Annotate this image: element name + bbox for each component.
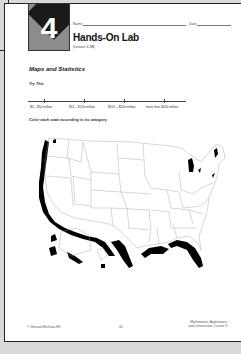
category-label: $0 – $50 million	[30, 105, 52, 109]
date-field[interactable]	[197, 25, 231, 26]
us-map	[31, 132, 231, 282]
number-line-tick	[164, 99, 165, 103]
category-label: more than $200 million	[146, 105, 178, 109]
date-label: Date	[189, 22, 196, 26]
name-label: Name	[73, 22, 82, 26]
state-borders	[45, 138, 225, 260]
number-line-tick	[124, 99, 125, 103]
footer-book-title: Mathematics: Applications and Connection…	[177, 320, 227, 328]
footer-page-number: 40	[119, 325, 123, 329]
category-label: $51 – $100 million	[69, 105, 95, 109]
chapter-number: 4	[29, 12, 69, 44]
number-line-tick	[84, 99, 85, 103]
instruction-text: Color each state according to its catego…	[29, 117, 108, 122]
name-date-row: Name Date	[73, 19, 233, 27]
number-line-axis	[28, 101, 186, 102]
footer-copyright: © Glencoe/McGraw-Hill	[27, 325, 60, 329]
page-title: Hands-On Lab	[73, 32, 139, 43]
try-this-heading: Try This	[29, 82, 44, 86]
name-field[interactable]	[83, 25, 186, 26]
category-label: $101 – $200 million	[108, 105, 136, 109]
book-title-line-2: and Connections, Course 3	[177, 324, 227, 328]
number-line-tick	[44, 99, 45, 103]
section-title: Maps and Statistics	[29, 66, 85, 72]
number-line: $0 – $50 million $51 – $100 million $101…	[28, 98, 186, 110]
lesson-reference: (Lesson 4-3B)	[73, 45, 95, 49]
coastline-shadow	[39, 139, 218, 268]
chapter-badge: 4	[28, 3, 70, 51]
worksheet-page: 4 Name Date Hands-On Lab (Lesson 4-3B) M…	[4, 3, 241, 342]
